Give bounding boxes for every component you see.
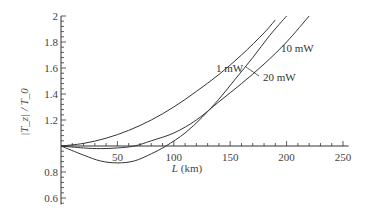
- x-axis-label: L (km): [171, 162, 203, 175]
- label-10mw: 10 mW: [281, 42, 314, 54]
- y-tick-label: 1.8: [44, 36, 58, 48]
- line-chart: 0.60.81.21.41.61.82 50100150200250 1 mW1…: [0, 0, 373, 220]
- y-tick-label: 0.8: [44, 166, 58, 178]
- label-1mw: 1 mW: [216, 62, 244, 74]
- x-tick-label: 50: [112, 151, 124, 163]
- y-axis-label: |T_z| / T_0: [18, 88, 30, 136]
- y-tick-label: 1.4: [44, 88, 58, 100]
- x-tick-label: 200: [278, 151, 295, 163]
- x-axis: 50100150200250: [61, 141, 352, 163]
- y-tick-label: 1.2: [44, 114, 58, 126]
- plot-curves: [61, 16, 309, 163]
- x-tick-label: 150: [222, 151, 239, 163]
- y-tick-label: 2: [53, 10, 59, 22]
- y-axis: 0.60.81.21.41.61.82: [44, 10, 66, 205]
- y-tick-label: 1.6: [44, 62, 58, 74]
- y-tick-label: 0.6: [44, 192, 58, 204]
- x-tick-label: 250: [335, 151, 352, 163]
- curve-1-mw: [61, 20, 275, 146]
- label-20mw: 20 mW: [263, 71, 296, 83]
